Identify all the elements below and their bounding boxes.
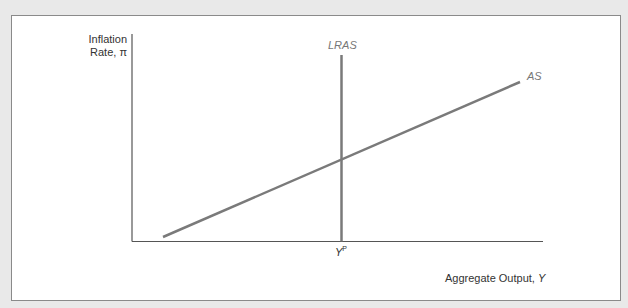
y-axis-label-line1: Inflation (88, 33, 127, 46)
y-axis-label: Inflation Rate, π (88, 33, 127, 59)
as-label: AS (527, 70, 542, 83)
x-axis-label: Aggregate Output, Y (445, 272, 545, 285)
pi-symbol: π (119, 46, 127, 58)
y-axis-label-line2: Rate, π (88, 46, 127, 59)
potential-output-tick-label: YP (335, 246, 347, 259)
lras-label: LRAS (328, 39, 357, 52)
